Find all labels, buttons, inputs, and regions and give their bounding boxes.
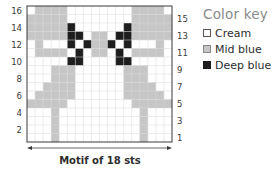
chart-cell <box>35 83 43 92</box>
chart-cell <box>43 117 51 126</box>
chart-cell <box>100 117 108 126</box>
chart-cell <box>108 117 116 126</box>
chart-cell <box>116 125 124 134</box>
chart-cell <box>35 32 43 41</box>
chart-cell <box>148 66 156 75</box>
chart-cell <box>100 134 108 143</box>
chart-cell <box>51 15 59 24</box>
chart-cell <box>108 15 116 24</box>
chart-cell <box>164 100 172 109</box>
row-label: 5 <box>177 99 182 109</box>
chart-cell <box>59 108 67 117</box>
chart-cell <box>67 6 75 15</box>
row-label: 4 <box>17 108 22 118</box>
chart-cell <box>116 40 124 49</box>
chart-cell <box>124 15 132 24</box>
chart-cell <box>124 134 132 143</box>
chart-cell <box>100 74 108 83</box>
chart-cell <box>43 23 51 32</box>
chart-cell <box>100 91 108 100</box>
chart-cell <box>59 32 67 41</box>
chart-cell <box>59 83 67 92</box>
row-label: 9 <box>177 65 182 75</box>
chart-cell <box>148 91 156 100</box>
chart-cell <box>100 40 108 49</box>
chart-cell <box>124 40 132 49</box>
chart-cell <box>59 74 67 83</box>
chart-cell <box>51 83 59 92</box>
chart-cell <box>124 83 132 92</box>
chart-cell <box>35 15 43 24</box>
chart-cell <box>132 66 140 75</box>
chart-cell <box>51 6 59 15</box>
chart-cell <box>140 108 148 117</box>
chart-cell <box>132 74 140 83</box>
cream-swatch <box>203 29 211 37</box>
chart-cell <box>43 91 51 100</box>
chart-cell <box>75 49 83 58</box>
row-label: 16 <box>11 6 22 16</box>
chart-cell <box>140 6 148 15</box>
chart-cell <box>148 32 156 41</box>
chart-cell <box>91 57 99 66</box>
chart-cell <box>148 40 156 49</box>
chart-cell <box>75 15 83 24</box>
chart-cell <box>108 91 116 100</box>
chart-cell <box>67 23 75 32</box>
chart-cell <box>148 100 156 109</box>
mid-blue-swatch <box>203 45 211 53</box>
chart-cell <box>156 23 164 32</box>
chart-cell <box>67 117 75 126</box>
chart-cell <box>75 57 83 66</box>
chart-cell <box>100 6 108 15</box>
chart-cell <box>27 57 35 66</box>
chart-cell <box>91 49 99 58</box>
chart-cell <box>132 125 140 134</box>
chart-cell <box>67 100 75 109</box>
chart-cell <box>100 23 108 32</box>
chart-cell <box>59 57 67 66</box>
chart-cell <box>35 40 43 49</box>
chart-cell <box>91 32 99 41</box>
color-key-title: Color key <box>203 6 271 22</box>
chart-cell <box>164 49 172 58</box>
chart-cell <box>148 134 156 143</box>
chart-cell <box>43 6 51 15</box>
chart-cell <box>35 134 43 143</box>
width-arrow <box>27 146 172 150</box>
chart-cell <box>83 15 91 24</box>
chart-cell <box>164 32 172 41</box>
chart-cell <box>156 15 164 24</box>
chart-cell <box>156 100 164 109</box>
chart-cell <box>35 91 43 100</box>
chart-cell <box>116 23 124 32</box>
chart-cell <box>27 49 35 58</box>
chart-cell <box>164 91 172 100</box>
row-label: 10 <box>11 57 22 67</box>
chart-cell <box>116 83 124 92</box>
chart-cell <box>164 134 172 143</box>
chart-cell <box>35 6 43 15</box>
chart-cell <box>124 117 132 126</box>
chart-cell <box>132 6 140 15</box>
chart-cell <box>75 66 83 75</box>
chart-cell <box>59 23 67 32</box>
chart-cell <box>43 32 51 41</box>
chart-cell <box>83 83 91 92</box>
chart-cell <box>51 49 59 58</box>
chart-cell <box>43 108 51 117</box>
chart-cell <box>100 66 108 75</box>
chart-cell <box>75 40 83 49</box>
chart-cell <box>67 66 75 75</box>
chart-cell <box>124 32 132 41</box>
chart-cell <box>140 49 148 58</box>
chart-cell <box>51 57 59 66</box>
chart-cell <box>156 74 164 83</box>
chart-cell <box>132 83 140 92</box>
chart-cell <box>67 15 75 24</box>
chart-cell <box>116 117 124 126</box>
chart-cell <box>43 40 51 49</box>
chart-cell <box>148 15 156 24</box>
chart-cell <box>124 66 132 75</box>
chart-cell <box>132 134 140 143</box>
